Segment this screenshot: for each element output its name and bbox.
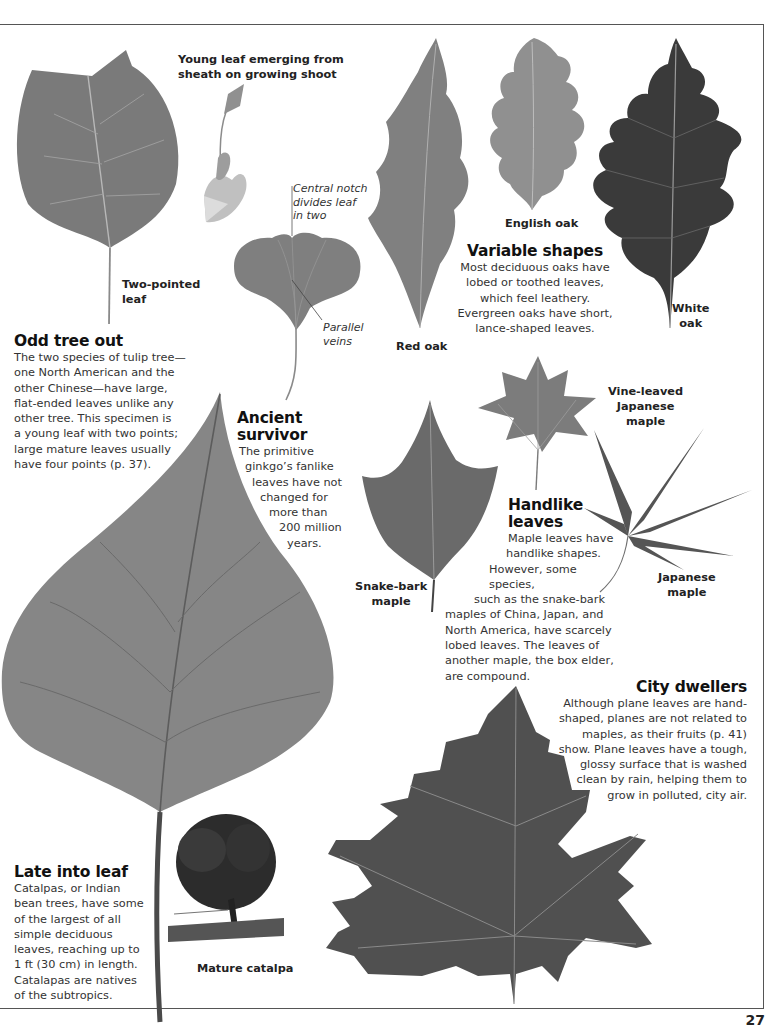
- body-line: of the subtropics.: [14, 988, 164, 1003]
- page-frame-top-rule: [0, 24, 764, 25]
- note-line: in two: [293, 209, 368, 223]
- label-line: Snake-bark: [355, 579, 427, 594]
- section-body: Catalpas, or Indian bean trees, have som…: [14, 881, 164, 1003]
- handlike-leaves-section: Handlike leaves Maple leaves have handli…: [445, 497, 625, 684]
- label-line: leaf: [122, 292, 200, 307]
- two-pointed-leaf-label: Two-pointed leaf: [122, 277, 200, 307]
- label-line: maple: [658, 585, 716, 600]
- body-line: more than: [237, 505, 367, 520]
- english-oak-leaf-image: [482, 38, 594, 210]
- body-line: of the largest of all: [14, 912, 164, 927]
- section-heading: Late into leaf: [14, 864, 164, 881]
- body-line: show. Plane leaves have a tough,: [540, 742, 747, 757]
- body-line: handlike shapes.: [445, 546, 625, 561]
- body-line: Although plane leaves are hand-: [540, 696, 747, 711]
- note-line: veins: [323, 335, 364, 349]
- body-line: bean trees, have some: [14, 896, 164, 911]
- section-heading: Handlike leaves: [445, 497, 625, 531]
- label-line: Vine-leaved: [608, 384, 683, 399]
- body-line: lobed leaves. The leaves of: [445, 638, 625, 653]
- label-line: Two-pointed: [122, 277, 200, 292]
- snake-bark-maple-label: Snake-bark maple: [355, 579, 427, 609]
- heading-line: Ancient: [237, 410, 367, 427]
- body-line: Most deciduous oaks have: [452, 260, 618, 275]
- label-line: White: [672, 301, 709, 316]
- page-frame-right-rule: [763, 24, 764, 1009]
- city-dwellers-section: City dwellers Although plane leaves are …: [540, 679, 747, 803]
- section-body: Most deciduous oaks have lobed or toothe…: [452, 260, 618, 336]
- body-line: leaves have not: [237, 475, 367, 490]
- body-line: leaves, reaching up to: [14, 942, 164, 957]
- body-line: 1 ft (30 cm) in length.: [14, 957, 164, 972]
- heading-line: Handlike: [508, 497, 625, 514]
- body-line: simple deciduous: [14, 927, 164, 942]
- label-line: maple: [608, 414, 683, 429]
- section-body: Although plane leaves are hand- shaped, …: [540, 696, 747, 803]
- body-line: glossy surface that is washed: [540, 757, 747, 772]
- mature-catalpa-tree-illustration: [168, 810, 284, 950]
- body-line: Maple leaves have: [445, 531, 625, 546]
- section-heading: City dwellers: [540, 679, 747, 696]
- note-line: Parallel: [323, 321, 364, 335]
- english-oak-label: English oak: [505, 216, 578, 231]
- heading-line: leaves: [508, 514, 625, 531]
- body-line: Evergreen oaks have short,: [452, 306, 618, 321]
- body-line: Catalpas, or Indian: [14, 881, 164, 896]
- body-line: which feel leathery.: [452, 291, 618, 306]
- label-line: Japanese: [608, 399, 683, 414]
- label-line: Japanese: [658, 570, 716, 585]
- body-line: clean by rain, helping them to: [540, 772, 747, 787]
- young-leaf-caption: Young leaf emerging from sheath on growi…: [178, 52, 348, 82]
- body-line: grow in polluted, city air.: [540, 788, 747, 803]
- mature-catalpa-label: Mature catalpa: [197, 961, 293, 976]
- body-line: lobed or toothed leaves,: [452, 275, 618, 290]
- body-line: changed for: [237, 490, 367, 505]
- parallel-veins-note: Parallel veins: [323, 321, 364, 348]
- caption-line: sheath on growing shoot: [178, 67, 348, 82]
- page-number: 27: [746, 1012, 765, 1028]
- note-line: Central notch: [293, 182, 368, 196]
- body-line: 200 million: [237, 520, 367, 535]
- note-line: divides leaf: [293, 196, 368, 210]
- body-line: Catalapas are natives: [14, 973, 164, 988]
- red-oak-label: Red oak: [396, 339, 447, 354]
- heading-line: survivor: [237, 427, 367, 444]
- caption-line: Young leaf emerging from: [178, 52, 348, 67]
- body-line: maples, as their fruits (p. 41): [540, 727, 747, 742]
- body-line: lance-shaped leaves.: [452, 321, 618, 336]
- section-body: Maple leaves have handlike shapes. Howev…: [445, 531, 625, 684]
- body-line: years.: [237, 536, 367, 551]
- variable-shapes-section: Variable shapes Most deciduous oaks have…: [452, 243, 618, 336]
- body-line: such as the snake-bark: [445, 592, 625, 607]
- label-line: oak: [672, 316, 709, 331]
- ancient-survivor-section: Ancient survivor The primitive ginkgo’s …: [237, 410, 367, 551]
- section-heading: Ancient survivor: [237, 410, 367, 444]
- white-oak-label: White oak: [672, 301, 709, 331]
- vine-leaved-maple-label: Vine-leaved Japanese maple: [608, 384, 683, 429]
- section-heading: Odd tree out: [14, 333, 234, 350]
- body-line: another maple, the box elder,: [445, 653, 625, 668]
- body-line: ginkgo’s fanlike: [237, 459, 367, 474]
- section-body: The primitive ginkgo’s fanlike leaves ha…: [237, 444, 367, 551]
- japanese-maple-label: Japanese maple: [658, 570, 716, 600]
- label-line: maple: [355, 594, 427, 609]
- body-line: shaped, planes are not related to: [540, 711, 747, 726]
- late-into-leaf-section: Late into leaf Catalpas, or Indian bean …: [14, 864, 164, 1003]
- body-line: one North American and the: [14, 365, 234, 380]
- central-notch-note: Central notch divides leaf in two: [293, 182, 368, 223]
- body-line: North America, have scarcely: [445, 623, 625, 638]
- body-line: However, some species,: [445, 562, 625, 593]
- section-heading: Variable shapes: [452, 243, 618, 260]
- body-line: maples of China, Japan, and: [445, 607, 625, 622]
- body-line: The two species of tulip tree—: [14, 350, 234, 365]
- body-line: The primitive: [237, 444, 367, 459]
